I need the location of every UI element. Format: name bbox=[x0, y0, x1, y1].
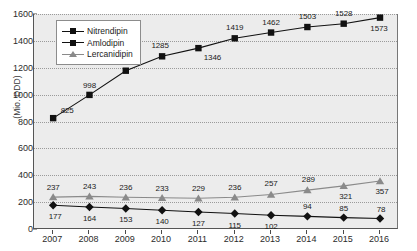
legend-item-lercanidipin: Lercanidipin bbox=[62, 49, 133, 60]
data-label: 1528 bbox=[335, 8, 352, 17]
y-tick-label: 800 bbox=[0, 117, 33, 127]
diamond-marker-icon bbox=[267, 211, 275, 219]
x-tick-label: 2007 bbox=[42, 234, 62, 244]
data-label: 153 bbox=[119, 215, 132, 224]
data-label: 357 bbox=[375, 187, 388, 196]
legend: Nitrendipin Amlodipin Lercanidipin bbox=[56, 20, 141, 65]
diamond-marker-icon bbox=[194, 208, 202, 216]
x-tick-label: 2008 bbox=[78, 234, 98, 244]
x-tick-mark bbox=[197, 230, 198, 234]
x-tick-mark bbox=[270, 230, 271, 234]
square-marker-icon bbox=[232, 35, 238, 41]
triangle-marker-icon bbox=[62, 49, 84, 60]
x-tick-label: 2015 bbox=[333, 234, 353, 244]
legend-label: Lercanidipin bbox=[87, 49, 133, 59]
y-tick-label: 0 bbox=[0, 224, 33, 234]
data-label: 78 bbox=[377, 204, 386, 213]
y-tick-label: 1600 bbox=[0, 9, 33, 19]
data-label: 825 bbox=[61, 106, 74, 115]
diamond-marker-icon bbox=[303, 212, 311, 220]
square-marker-icon bbox=[304, 24, 310, 30]
data-label: 229 bbox=[192, 184, 205, 193]
legend-label: Nitrendipin bbox=[87, 26, 128, 36]
data-label: 998 bbox=[83, 80, 96, 89]
plot-area: 1771641531401271151029485788259981178128… bbox=[33, 14, 398, 229]
x-tick-label: 2012 bbox=[224, 234, 244, 244]
x-tick-mark bbox=[379, 230, 380, 234]
diamond-marker-icon bbox=[62, 26, 84, 37]
x-tick-mark bbox=[343, 230, 344, 234]
y-tick-label: 600 bbox=[0, 143, 33, 153]
x-tick-label: 2016 bbox=[369, 234, 389, 244]
square-marker-icon bbox=[377, 14, 383, 20]
y-tick-label: 200 bbox=[0, 197, 33, 207]
data-label: 236 bbox=[228, 183, 241, 192]
square-marker-icon bbox=[195, 45, 201, 51]
data-label: 243 bbox=[83, 182, 96, 191]
x-tick-mark bbox=[306, 230, 307, 234]
data-label: 236 bbox=[119, 183, 132, 192]
data-label: 164 bbox=[83, 213, 96, 222]
square-marker-icon bbox=[62, 37, 84, 48]
x-tick-label: 2011 bbox=[188, 234, 207, 244]
series-line-nitrendipin bbox=[53, 205, 380, 218]
diamond-marker-icon bbox=[122, 204, 130, 212]
data-label: 85 bbox=[339, 203, 348, 212]
square-marker-icon bbox=[123, 68, 129, 74]
square-marker-icon bbox=[86, 92, 92, 98]
data-label: 127 bbox=[192, 218, 205, 227]
legend-label: Amlodipin bbox=[87, 38, 124, 48]
chart-container: (Mio. DDD) 02004006008001000120014001600… bbox=[0, 0, 417, 251]
triangle-marker-icon bbox=[376, 177, 384, 184]
y-tick-label: 400 bbox=[0, 170, 33, 180]
series-line-lercanidipin bbox=[53, 181, 380, 198]
data-label: 140 bbox=[156, 217, 169, 226]
data-label: 321 bbox=[339, 191, 352, 200]
x-tick-label: 2009 bbox=[115, 234, 135, 244]
data-label: 257 bbox=[265, 179, 278, 188]
x-tick-mark bbox=[88, 230, 89, 234]
data-label: 1503 bbox=[299, 12, 316, 21]
legend-item-amlodipin: Amlodipin bbox=[62, 37, 133, 48]
diamond-marker-icon bbox=[49, 201, 57, 209]
data-label: 289 bbox=[302, 175, 315, 184]
data-label: 1346 bbox=[204, 53, 221, 62]
y-tick-label: 1000 bbox=[0, 90, 33, 100]
data-label: 115 bbox=[229, 220, 241, 229]
data-label: 233 bbox=[156, 183, 169, 192]
square-marker-icon bbox=[340, 20, 346, 26]
y-tick-label: 1400 bbox=[0, 36, 33, 46]
diamond-marker-icon bbox=[376, 214, 384, 222]
y-tick-label: 1200 bbox=[0, 63, 33, 73]
data-label: 1419 bbox=[226, 23, 243, 32]
x-tick-label: 2014 bbox=[296, 234, 316, 244]
square-marker-icon bbox=[268, 29, 274, 35]
y-axis-ticks: 02004006008001000120014001600 bbox=[0, 0, 33, 251]
data-label: 1573 bbox=[370, 23, 387, 32]
diamond-marker-icon bbox=[85, 203, 93, 211]
data-label: 237 bbox=[47, 183, 60, 192]
x-tick-mark bbox=[52, 230, 53, 234]
diamond-marker-icon bbox=[158, 206, 166, 214]
data-label: 1462 bbox=[262, 17, 279, 26]
data-label: 102 bbox=[265, 222, 278, 231]
data-label: 1285 bbox=[151, 41, 168, 50]
x-tick-mark bbox=[234, 230, 235, 234]
data-label: 177 bbox=[49, 212, 62, 221]
data-label: 94 bbox=[303, 202, 312, 211]
square-marker-icon bbox=[159, 53, 165, 59]
diamond-marker-icon bbox=[231, 209, 239, 217]
x-tick-mark bbox=[125, 230, 126, 234]
x-tick-label: 2013 bbox=[260, 234, 280, 244]
square-marker-icon bbox=[50, 115, 56, 121]
legend-item-nitrendipin: Nitrendipin bbox=[62, 26, 133, 37]
diamond-marker-icon bbox=[339, 213, 347, 221]
x-tick-mark bbox=[161, 230, 162, 234]
x-tick-label: 2010 bbox=[151, 234, 171, 244]
